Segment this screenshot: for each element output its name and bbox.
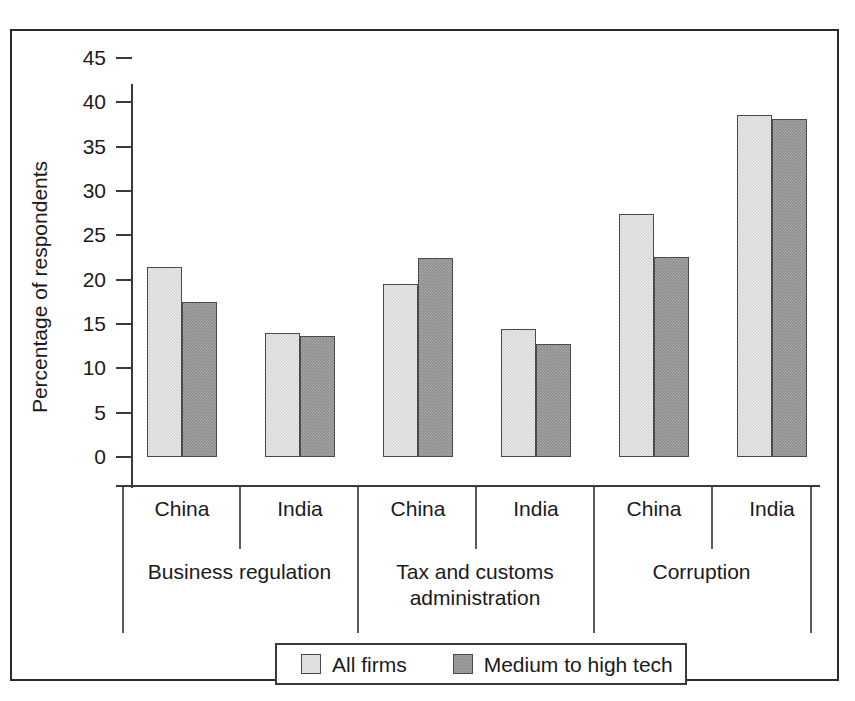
y-axis-tick (116, 279, 132, 281)
bar-all-firms (619, 214, 654, 457)
chart-frame: 051015202530354045 Percentage of respond… (10, 29, 839, 681)
legend-label-medium-to-high-tech: Medium to high tech (484, 654, 673, 675)
x-axis-group-label: Business regulation (110, 559, 370, 585)
bar-all-firms (265, 333, 300, 457)
y-axis-tick (116, 190, 132, 192)
bar-medium-to-high-tech (300, 336, 335, 457)
x-axis-group-label: Corruption (572, 559, 832, 585)
x-axis-separator-minor (475, 487, 477, 549)
legend-swatch-light-icon (301, 654, 321, 674)
y-axis-tick (116, 456, 132, 458)
x-axis-category-label: India (707, 497, 837, 521)
x-axis-category-label: China (117, 497, 247, 521)
y-axis-tick-label: 20 (60, 269, 106, 290)
bar-all-firms (147, 267, 182, 457)
bar-medium-to-high-tech (418, 258, 453, 458)
y-axis-tick-label: 0 (60, 446, 106, 467)
chart-figure: 051015202530354045 Percentage of respond… (0, 0, 855, 701)
y-axis-tick (116, 412, 132, 414)
y-axis-line (131, 84, 133, 488)
bar-medium-to-high-tech (536, 344, 571, 457)
y-axis-tick-label: 15 (60, 313, 106, 334)
y-axis-tick-label: 5 (60, 402, 106, 423)
legend-item-all-firms: All firms (301, 645, 407, 683)
x-axis-group-label-line: Business regulation (110, 559, 370, 585)
y-axis-tick-label: 30 (60, 180, 106, 201)
bar-all-firms (383, 284, 418, 457)
x-axis-category-label: China (589, 497, 719, 521)
y-axis-tick (116, 101, 132, 103)
x-axis-line (116, 485, 820, 487)
y-axis-tick (116, 146, 132, 148)
y-axis-title: Percentage of respondents (29, 87, 51, 487)
legend-label-all-firms: All firms (332, 654, 407, 675)
x-axis-group-label-line: administration (345, 585, 605, 611)
y-axis-tick (116, 234, 132, 236)
y-axis-tick-label: 10 (60, 357, 106, 378)
x-axis-separator-minor (239, 487, 241, 549)
y-axis-tick-label: 45 (60, 47, 106, 68)
y-axis-tick (116, 367, 132, 369)
y-axis-tick-labels: 051015202530354045 (52, 31, 106, 701)
legend-item-medium-to-high-tech: Medium to high tech (453, 645, 673, 683)
y-axis-tick-label: 35 (60, 136, 106, 157)
y-axis-tick-label: 40 (60, 91, 106, 112)
bar-medium-to-high-tech (182, 302, 217, 457)
x-axis-separator-minor (711, 487, 713, 549)
legend-swatch-dark-icon (453, 654, 473, 674)
x-axis-category-label: India (235, 497, 365, 521)
x-axis-group-label-line: Corruption (572, 559, 832, 585)
bar-medium-to-high-tech (654, 257, 689, 457)
x-axis-group-label: Tax and customsadministration (345, 559, 605, 611)
bar-all-firms (501, 329, 536, 457)
x-axis-category-label: India (471, 497, 601, 521)
x-axis-group-label-line: Tax and customs (345, 559, 605, 585)
bar-medium-to-high-tech (772, 119, 807, 457)
y-axis-tick (116, 57, 132, 59)
chart-legend: All firms Medium to high tech (275, 643, 687, 685)
bar-all-firms (737, 115, 772, 457)
x-axis-category-label: China (353, 497, 483, 521)
y-axis-tick (116, 323, 132, 325)
y-axis-tick-label: 25 (60, 224, 106, 245)
